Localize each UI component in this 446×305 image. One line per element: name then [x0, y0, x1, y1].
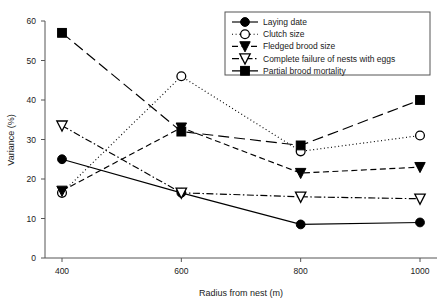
y-tick-label: 30: [27, 135, 37, 145]
data-point-marker: [57, 121, 67, 131]
data-point-marker: [416, 218, 425, 227]
chart-legend: Laying dateClutch sizeFledged brood size…: [225, 12, 430, 76]
x-tick-label: 600: [174, 266, 188, 276]
x-axis-ticks: 4006008001000: [55, 258, 430, 276]
x-tick-label: 1000: [411, 266, 430, 276]
data-point-marker: [415, 162, 425, 172]
data-point-marker: [416, 96, 425, 105]
x-axis-title: Radius from nest (m): [199, 288, 283, 298]
legend-marker-sample: [241, 66, 250, 75]
y-tick-label: 50: [27, 56, 37, 66]
x-tick-label: 800: [294, 266, 308, 276]
y-tick-label: 0: [31, 253, 36, 263]
series-line: [62, 128, 420, 191]
y-axis-title: Variance (%): [6, 114, 16, 165]
legend-item-label: Laying date: [263, 17, 307, 27]
chart-container: 0102030405060 4006008001000 Variance (%)…: [0, 0, 446, 305]
data-point-marker: [177, 72, 186, 81]
y-axis-ticks: 0102030405060: [27, 16, 45, 263]
data-point-marker: [416, 131, 425, 140]
data-point-marker: [177, 127, 186, 136]
series-laying-date: [58, 155, 425, 229]
legend-marker-sample: [241, 18, 250, 27]
series-complete-failure-of-nests-with-eggs: [57, 121, 425, 204]
legend-item[interactable]: Laying date: [232, 17, 307, 27]
data-point-marker: [415, 194, 425, 204]
legend-item-label: Partial brood mortality: [263, 66, 346, 76]
series-line: [62, 159, 420, 224]
y-tick-label: 60: [27, 16, 37, 26]
data-point-marker: [58, 155, 67, 164]
series-clutch-size: [58, 72, 425, 197]
legend-item-label: Complete failure of nests with eggs: [263, 54, 395, 64]
series-fledged-brood-size: [57, 123, 425, 196]
data-point-marker: [296, 141, 305, 150]
legend-item[interactable]: Partial brood mortality: [232, 66, 346, 76]
x-tick-label: 400: [55, 266, 69, 276]
y-tick-label: 10: [27, 214, 37, 224]
legend-marker-sample: [241, 30, 250, 39]
legend-item[interactable]: Clutch size: [232, 29, 305, 39]
legend-item-label: Fledged brood size: [263, 41, 336, 51]
data-point-marker: [58, 28, 67, 37]
variance-line-chart: 0102030405060 4006008001000 Variance (%)…: [0, 0, 446, 305]
data-point-marker: [296, 220, 305, 229]
legend-item-label: Clutch size: [263, 29, 305, 39]
series-line: [62, 76, 420, 193]
y-tick-label: 20: [27, 174, 37, 184]
y-tick-label: 40: [27, 95, 37, 105]
